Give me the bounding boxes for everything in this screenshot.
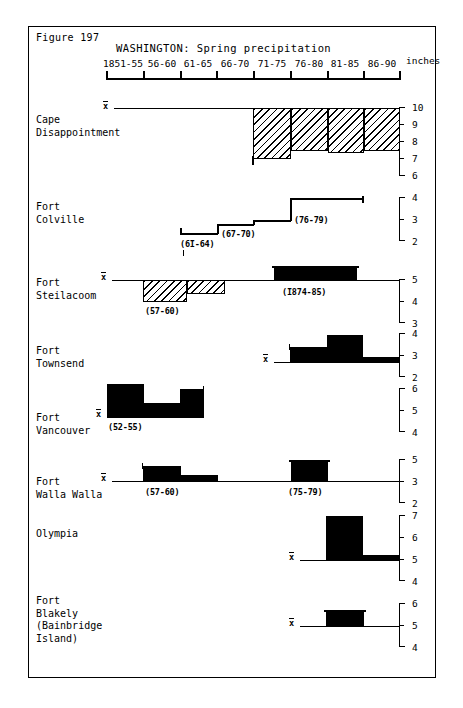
step-riser-colville-3 [290, 198, 292, 221]
step-colville-71-75 [253, 220, 291, 222]
period-label-colville-61-64: (6I-64) [180, 239, 214, 249]
colville-drop-tick [183, 250, 184, 256]
bar-vancouver-56-60 [144, 403, 180, 417]
step-riser-colville-1 [217, 224, 219, 234]
scale-tick-cape-7 [399, 158, 404, 159]
scale-bracket-olympia [399, 515, 405, 581]
scale-num-colville-4: 4 [412, 193, 418, 203]
axis-tick-1 [143, 71, 145, 80]
scale-num-vancouver-4: 4 [412, 428, 418, 438]
scale-num-cape-9: 9 [412, 120, 418, 130]
scale-num-cape-10: 10 [412, 103, 423, 113]
chart-title: WASHINGTON: Spring precipitation [116, 42, 331, 54]
mean-marker-vancouver: x [96, 409, 101, 419]
mean-marker-olympia: x [289, 552, 294, 562]
station-label-olympia: Olympia [36, 528, 78, 541]
scale-num-olympia-5: 5 [412, 555, 418, 565]
scale-tick-steilacoom-4 [399, 301, 404, 302]
station-label-fort-walla-walla: Fort Walla Walla [36, 476, 102, 501]
scale-num-steilacoom-4: 4 [412, 297, 418, 307]
axis-tick-0 [106, 71, 108, 80]
scale-tick-townsend-3 [399, 355, 404, 356]
scale-tick-cape-8 [399, 141, 404, 142]
scale-tick-cape-9 [399, 124, 404, 125]
axis-tick-8 [399, 71, 401, 80]
scale-tick-olympia-6 [399, 537, 404, 538]
walla-start-tick [142, 463, 143, 469]
period-label-colville-76-79: (76-79) [294, 215, 328, 225]
bar-cape-81-85 [328, 108, 364, 153]
bar-steilacoom-57-60-a [143, 280, 187, 302]
step-colville-76-79 [290, 198, 363, 200]
scale-num-townsend-3: 3 [412, 351, 418, 361]
scale-num-blakely-4: 4 [412, 643, 418, 653]
period-label-walla-57-60: (57-60) [145, 487, 179, 497]
bar-steilacoom-1874-85 [274, 268, 357, 280]
scale-num-cape-7: 7 [412, 154, 418, 164]
scale-num-cape-8: 8 [412, 137, 418, 147]
period-label-walla-75-79: (75-79) [288, 487, 322, 497]
figure-number-label: Figure 197 [36, 32, 99, 43]
station-label-fort-steilacoom: Fort Steilacoom [36, 277, 96, 302]
mean-line-walla-walla [112, 481, 400, 482]
scale-num-walla-3: 3 [412, 477, 418, 487]
station-label-cape-disappointment: Cape Disappointment [36, 114, 120, 139]
bar-olympia-86-90 [363, 555, 400, 560]
bar-vancouver-61-65 [180, 389, 204, 417]
station-label-fort-blakely: Fort Blakely (Bainbridge Island) [36, 595, 102, 645]
axis-tick-4 [253, 71, 255, 80]
colville-start-tick [180, 228, 182, 235]
scale-num-townsend-4: 4 [412, 329, 418, 339]
bar-cape-71-75 [253, 108, 291, 159]
period-label-colville-67-70: (67-70) [221, 229, 255, 239]
colville-end-tick [362, 196, 364, 203]
mean-line-blakely [300, 626, 400, 627]
bar-walla-75-79 [291, 462, 328, 481]
mean-marker-steilacoom: x [101, 272, 106, 282]
period-label-steilacoom-57-60: (57-60) [145, 306, 179, 316]
axis-tick-6 [327, 71, 329, 80]
scale-num-steilacoom-5: 5 [412, 275, 418, 285]
step-colville-61-64 [180, 233, 218, 235]
bar-cap-blakely [324, 610, 366, 612]
scale-num-olympia-4: 4 [412, 577, 418, 587]
scale-tick-colville-3 [399, 219, 404, 220]
bar-vancouver-52-55 [107, 384, 144, 417]
scale-tick-vancouver-5 [399, 410, 404, 411]
step-colville-67-70 [217, 224, 254, 226]
mean-marker-blakely: x [289, 618, 294, 628]
bar-cap-walla-75-79 [289, 460, 330, 462]
mean-line-townsend [274, 362, 400, 363]
bar-townsend-86-90 [363, 357, 400, 362]
scale-num-colville-3: 3 [412, 215, 418, 225]
station-label-fort-townsend: Fort Townsend [36, 345, 84, 370]
units-label: inches [406, 55, 440, 66]
axis-tick-2 [180, 71, 182, 80]
scale-tick-olympia-5 [399, 559, 404, 560]
axis-tick-5 [290, 71, 292, 80]
scale-num-colville-2: 2 [412, 237, 418, 247]
scale-num-vancouver-6: 6 [412, 384, 418, 394]
mean-marker-townsend: x [263, 354, 268, 364]
bar-townsend-81-85 [327, 335, 363, 362]
scale-num-vancouver-5: 5 [412, 406, 418, 416]
scale-num-walla-2: 2 [412, 499, 418, 509]
scale-tick-walla-3 [399, 481, 404, 482]
scale-num-cape-6: 6 [412, 171, 418, 181]
scale-num-blakely-6: 6 [412, 599, 418, 609]
axis-tick-7 [363, 71, 365, 80]
scale-tick-blakely-5 [399, 625, 404, 626]
mean-marker-cape: x [103, 101, 108, 111]
scale-num-blakely-5: 5 [412, 621, 418, 631]
townsend-start-tick [289, 344, 290, 350]
bar-townsend-76-80 [290, 347, 327, 362]
mean-marker-walla-walla: x [101, 473, 106, 483]
axis-label-86-90: 86-90 [357, 58, 407, 69]
period-label-vancouver-52-55: (52-55) [108, 422, 142, 432]
cape-left-end-tick [252, 156, 254, 165]
scale-num-olympia-7: 7 [412, 511, 418, 521]
bar-cape-86-90 [364, 108, 400, 151]
bar-walla-57-60 [143, 466, 181, 481]
bar-olympia-81-85 [326, 516, 363, 560]
mean-line-vancouver [107, 417, 204, 418]
